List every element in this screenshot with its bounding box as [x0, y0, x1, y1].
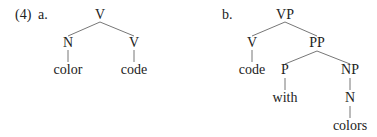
tree-b-v-node: V — [247, 35, 257, 50]
tree-a-leaf-code: code — [121, 62, 147, 77]
tree-b: b. VP V PP code P NP with N colors — [222, 7, 367, 133]
tree-b-np-node: NP — [341, 62, 359, 77]
tree-a-branch-left — [68, 22, 100, 36]
tree-b-pp-node: PP — [309, 35, 325, 50]
tree-b-leaf-code: code — [239, 62, 265, 77]
tree-a-leaf-color: color — [54, 62, 83, 77]
tree-b-label: b. — [222, 7, 233, 22]
tree-a: V N V color code — [54, 7, 148, 77]
tree-b-branch-vp-pp — [285, 22, 317, 36]
tree-b-n-node: N — [345, 90, 355, 105]
tree-b-branch-pp-p — [285, 51, 317, 64]
tree-a-v-node: V — [129, 35, 139, 50]
tree-a-root-node: V — [95, 7, 105, 22]
tree-a-n-node: N — [63, 35, 73, 50]
tree-a-branch-right — [100, 22, 134, 36]
tree-b-leaf-with: with — [273, 90, 298, 105]
syntax-tree-figure: (4) a. V N V color code b. VP V PP code — [0, 0, 377, 137]
example-number: (4) — [15, 7, 32, 23]
tree-b-p-node: P — [281, 62, 289, 77]
tree-b-leaf-colors: colors — [333, 118, 367, 133]
tree-diagram: (4) a. V N V color code b. VP V PP code — [0, 0, 377, 137]
tree-b-branch-vp-v — [252, 22, 285, 36]
tree-b-vp-node: VP — [276, 7, 294, 22]
tree-a-label: a. — [38, 7, 48, 22]
